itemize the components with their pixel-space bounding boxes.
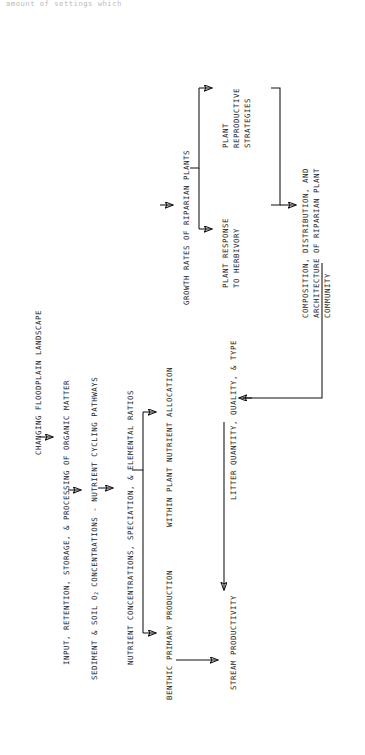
sediment-label-subscript: 2 bbox=[93, 592, 99, 595]
node-plant-response-to-herbivory-line1: PLANT RESPONSE bbox=[221, 218, 231, 288]
node-litter-quantity: LITTER QUANTITY, QUALITY, & TYPE bbox=[229, 340, 239, 500]
node-stream-productivity: STREAM PRODUCTIVITY bbox=[229, 595, 239, 690]
node-growth-rates-riparian-plants: GROWTH RATES OF RIPARIAN PLANTS bbox=[182, 150, 192, 305]
node-plant-response-to-herbivory-line2: TO HERBIVORY bbox=[232, 228, 242, 288]
node-plant-reproductive-strategies-line1: PLANT bbox=[221, 123, 231, 148]
node-plant-reproductive-strategies-line3: STRATEGIES bbox=[243, 98, 253, 148]
node-community-line2: ARCHITECTURE OF RIPARIAN PLANT bbox=[312, 168, 322, 318]
node-nutrient-concentrations: NUTRIENT CONCENTRATIONS, SPECIATION, & E… bbox=[126, 390, 136, 665]
sediment-label-part2: CONCENTRATIONS - NUTRIENT CYCLING PATHWA… bbox=[90, 377, 99, 592]
connector-layer bbox=[0, 0, 365, 755]
node-sediment-soil-o2: SEDIMENT & SOIL O2 CONCENTRATIONS - NUTR… bbox=[90, 377, 101, 680]
node-benthic-primary-production: BENTHIC PRIMARY PRODUCTION bbox=[165, 570, 175, 700]
node-changing-floodplain-landscape: CHANGING FLOODPLAIN LANDSCAPE bbox=[34, 310, 44, 455]
node-organic-matter: INPUT, RETENTION, STORAGE, & PROCESSING … bbox=[62, 380, 72, 665]
sediment-label-part1: SEDIMENT & SOIL O bbox=[90, 595, 99, 680]
figure-canvas: amount of settings which bbox=[0, 0, 365, 755]
node-community-line3: COMMUNITY bbox=[323, 273, 333, 318]
node-community-line1: COMPOSITION, DISTRIBUTION, AND bbox=[301, 168, 311, 318]
node-within-plant-nutrient-allocation: WITHIN PLANT NUTRIENT ALLOCATION bbox=[165, 367, 175, 527]
edge-response-reproductive-merge bbox=[271, 88, 280, 205]
node-plant-reproductive-strategies-line2: REPRODUCTIVE bbox=[232, 88, 242, 148]
